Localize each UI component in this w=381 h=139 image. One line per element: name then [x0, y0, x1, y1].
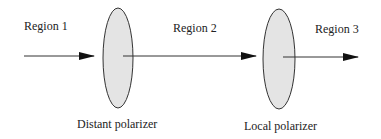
- local-polarizer: [263, 9, 295, 109]
- region-1-label: Region 1: [24, 19, 68, 33]
- region-2-label: Region 2: [173, 21, 217, 35]
- distant-polarizer: [103, 8, 133, 108]
- region-3-label: Region 3: [315, 22, 359, 36]
- distant-polarizer-label: Distant polarizer: [77, 117, 157, 131]
- polarizer-diagram: Region 1 Region 2 Region 3 Distant polar…: [0, 0, 381, 139]
- local-polarizer-label: Local polarizer: [244, 119, 317, 133]
